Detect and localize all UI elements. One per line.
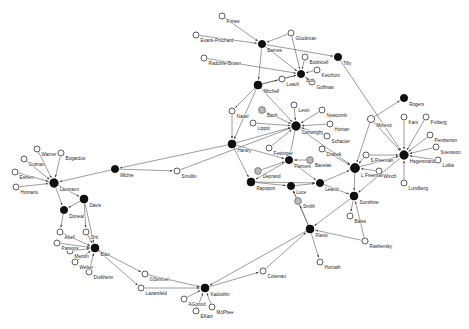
graph-node-label-bales: Bales [355, 219, 367, 224]
graph-node-michie[interactable] [111, 165, 118, 172]
graph-node-deprand[interactable] [255, 168, 262, 175]
graph-node-abell[interactable] [57, 229, 63, 235]
graph-node-tilly[interactable] [334, 53, 341, 60]
graph-node-rapoport[interactable] [247, 178, 255, 186]
graph-node-homans[interactable] [13, 184, 19, 190]
graph-node-fortes[interactable] [219, 13, 225, 19]
graph-node-doneal[interactable] [60, 206, 67, 213]
graph-node-label-leach: Leach [287, 82, 300, 87]
graph-node-label-smith: Smith [303, 204, 315, 209]
graph-node-orti[interactable] [83, 229, 89, 235]
graph-node-gsimmel[interactable] [142, 271, 148, 277]
graph-node-evanspritchard[interactable] [193, 32, 199, 38]
graph-node-label-bogardus: Bogardus [66, 156, 86, 161]
graph-edge [119, 169, 172, 171]
graph-node-label-ekatz: EKatz [201, 314, 214, 319]
graph-node-lundberg[interactable] [401, 180, 407, 186]
graph-node-pemberton[interactable] [427, 132, 433, 138]
graph-node-label-homan: Homan [335, 127, 350, 132]
graph-node-flament[interactable] [285, 156, 292, 163]
graph-node-bach[interactable] [259, 107, 266, 114]
graph-node-luce[interactable] [287, 182, 294, 189]
graph-node-smith[interactable] [295, 198, 302, 205]
graph-edge [306, 71, 313, 73]
label-layer: FortesEvans-PritchardBarnesGluckmanRadcl… [20, 19, 462, 319]
graph-node-eshern[interactable] [12, 169, 18, 175]
graph-node-newcomb[interactable] [319, 107, 325, 113]
graph-node-label-moreno: Moreno [376, 123, 392, 128]
graph-edge [409, 137, 428, 151]
graph-node-bogardus[interactable] [58, 150, 64, 156]
graph-node-coleman[interactable] [260, 268, 266, 274]
graph-node-kant[interactable] [401, 114, 407, 120]
graph-node-flavio[interactable] [306, 225, 314, 233]
graph-node-gutman[interactable] [21, 156, 27, 162]
graph-node-sunshine[interactable] [350, 192, 358, 200]
graph-node-label-homans: Homans [21, 190, 39, 195]
graph-edge [120, 145, 228, 168]
graph-node-harary[interactable] [228, 140, 236, 148]
graph-node-gluckman[interactable] [288, 30, 294, 36]
graph-node-label-flavio: Flavio [316, 233, 329, 238]
graph-node-lazarsfeld[interactable] [138, 285, 144, 291]
graph-node-label-nadel: Nadel [237, 114, 249, 119]
graph-node-ketchum[interactable] [314, 67, 320, 73]
graph-node-label-pemberton: Pemberton [435, 138, 458, 143]
graph-node-label-cartwright: Cartwright [302, 130, 324, 135]
graph-node-cartwright[interactable] [292, 122, 300, 130]
graph-node-festinger[interactable] [266, 145, 272, 151]
graph-node-label-fortes: Fortes [227, 19, 241, 24]
graph-node-label-horvath: Horvath [325, 265, 342, 270]
graph-edge [354, 173, 355, 190]
graph-node-label-agonod: AGonod [189, 302, 206, 307]
graph-node-warner[interactable] [34, 146, 40, 152]
graph-node-rogers[interactable] [400, 94, 407, 101]
graph-node-horvath[interactable] [317, 259, 323, 265]
graph-node-weber[interactable] [72, 259, 78, 265]
graph-node-sfreeman[interactable] [363, 152, 369, 158]
graph-node-nadel[interactable] [229, 108, 235, 114]
graph-node-label-blau: Blau [101, 252, 111, 257]
graph-node-lotka[interactable] [435, 157, 441, 163]
graph-node-rashevsky[interactable] [362, 238, 368, 244]
graph-node-label-davis: Davis [90, 203, 102, 208]
graph-node-bales[interactable] [347, 213, 353, 219]
graph-node-hagerstrand[interactable] [400, 151, 408, 159]
graph-node-lippitt[interactable] [250, 120, 256, 126]
graph-node-moreno[interactable] [367, 115, 374, 122]
graph-node-drabek[interactable] [319, 146, 325, 152]
graph-node-kadushin[interactable] [201, 284, 209, 292]
graph-node-label-froberg: Froberg [431, 120, 448, 125]
graph-node-homan[interactable] [327, 121, 333, 127]
graph-node-parsons[interactable] [54, 240, 60, 246]
graph-node-label-coleman: Coleman [268, 274, 287, 279]
graph-node-blau[interactable] [91, 244, 99, 252]
graph-node-leach[interactable] [279, 76, 285, 82]
graph-node-laumann[interactable] [50, 179, 58, 187]
graph-node-label-sunshine: Sunshine [360, 200, 380, 205]
graph-node-ekatz[interactable] [193, 308, 199, 314]
graph-node-lfreeman[interactable] [351, 164, 360, 173]
graph-node-mitchell[interactable] [254, 81, 262, 89]
graph-node-levin[interactable] [291, 102, 297, 108]
graph-node-barnes[interactable] [258, 40, 265, 47]
graph-node-label-flament: Flament [294, 164, 311, 169]
graph-node-froberg[interactable] [423, 114, 429, 120]
graph-edge [180, 128, 290, 170]
graph-node-bavelas[interactable] [307, 157, 314, 164]
graph-node-leavitt[interactable] [316, 179, 323, 186]
graph-node-schacter[interactable] [324, 133, 330, 139]
graph-node-label-winch: Winch [384, 174, 397, 179]
graph-node-radcliffebrown[interactable] [201, 55, 207, 61]
graph-node-agonod[interactable] [181, 296, 187, 302]
network-graph-canvas: FortesEvans-PritchardBarnesGluckmanRadcl… [0, 0, 469, 329]
graph-node-label-hagerstrand: Hagerstrand [410, 159, 436, 164]
graph-node-davis[interactable] [80, 195, 88, 203]
graph-edge [302, 61, 304, 69]
graph-node-label-barnes: Barnes [267, 48, 282, 53]
graph-node-bott[interactable] [297, 70, 304, 77]
graph-node-smullin[interactable] [174, 168, 180, 174]
graph-node-svensson[interactable] [433, 144, 439, 150]
graph-node-mcphee[interactable] [209, 304, 215, 310]
graph-node-bodnicell[interactable] [302, 54, 308, 60]
